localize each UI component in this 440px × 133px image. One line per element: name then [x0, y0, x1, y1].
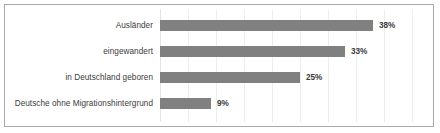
bar-track-1: 33% [160, 39, 433, 65]
bar-row: Ausländer 38% [5, 13, 433, 39]
bar-0[interactable] [160, 20, 373, 31]
bar-row: Deutsche ohne Migrationshintergrund 9% [5, 91, 433, 117]
category-label-0: Ausländer [5, 13, 153, 39]
value-label-2: 25% [306, 65, 322, 91]
bar-track-0: 38% [160, 13, 433, 39]
value-label-0: 38% [379, 13, 395, 39]
bar-3[interactable] [160, 98, 211, 109]
bar-track-2: 25% [160, 65, 433, 91]
bar-2[interactable] [160, 72, 300, 83]
category-label-3: Deutsche ohne Migrationshintergrund [5, 91, 153, 117]
bar-row: eingewandert 33% [5, 39, 433, 65]
bar-row: in Deutschland geboren 25% [5, 65, 433, 91]
chart-frame: Ausländer 38% eingewandert 33% in Deutsc… [4, 4, 434, 127]
bar-1[interactable] [160, 46, 345, 57]
category-label-2: in Deutschland geboren [5, 65, 153, 91]
value-label-3: 9% [217, 91, 229, 117]
bar-track-3: 9% [160, 91, 433, 117]
plot-area: Ausländer 38% eingewandert 33% in Deutsc… [5, 5, 433, 126]
value-label-1: 33% [351, 39, 367, 65]
category-label-1: eingewandert [5, 39, 153, 65]
